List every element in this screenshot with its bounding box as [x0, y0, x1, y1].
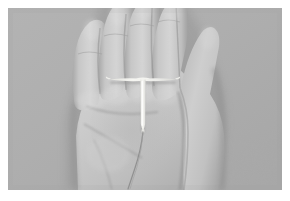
photo-bottom-margin [0, 190, 290, 201]
photograph-frame [8, 8, 282, 190]
palm-with-iud-photo [8, 8, 282, 190]
image-canvas [0, 0, 290, 201]
film-grain-overlay [8, 8, 282, 190]
